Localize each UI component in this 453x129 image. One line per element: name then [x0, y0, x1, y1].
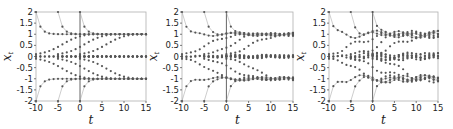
panel-1: 21.510.50-0.5-1-1.5-2-10-5051015txt [0, 7, 151, 127]
plot-frame [36, 12, 146, 101]
figure: 21.510.50-0.5-1-1.5-2-10-5051015txt 21.5… [0, 0, 453, 129]
x-axis-label: t [235, 113, 240, 127]
y-tick-label: -0.5 [309, 63, 326, 73]
y-tick-label: -1 [171, 74, 179, 84]
y-tick-label: 1.5 [312, 18, 326, 28]
plot-frame [329, 12, 438, 101]
x-tick-label: 15 [141, 103, 152, 113]
y-tick-label: -1 [25, 74, 33, 84]
x-axis-label: t [381, 113, 386, 127]
y-tick-label: -1.5 [309, 85, 326, 95]
x-tick-label: 10 [411, 103, 422, 113]
y-tick-label: 0 [321, 52, 326, 62]
x-tick-label: 10 [119, 103, 130, 113]
y-tick-label: -1.5 [162, 85, 179, 95]
x-tick-label: 0 [224, 103, 229, 113]
y-tick-label: -1.5 [16, 85, 33, 95]
x-tick-label: -10 [29, 103, 43, 113]
x-tick-label: 5 [246, 103, 251, 113]
y-tick-label: 1.5 [165, 18, 179, 28]
y-tick-label: 2 [174, 7, 179, 17]
x-tick-label: -5 [347, 103, 355, 113]
y-tick-label: 1 [28, 29, 33, 39]
y-tick-label: 1.5 [19, 18, 33, 28]
y-tick-label: -0.5 [162, 63, 179, 73]
y-axis-label: xt [293, 52, 308, 62]
x-tick-label: -10 [322, 103, 336, 113]
y-tick-label: 2 [28, 7, 33, 17]
y-tick-label: 0.5 [19, 40, 33, 50]
x-tick-label: 10 [265, 103, 276, 113]
y-axis-label: xt [146, 52, 161, 62]
y-tick-label: -1 [318, 74, 326, 84]
y-tick-label: 0.5 [165, 40, 179, 50]
x-tick-label: -5 [200, 103, 208, 113]
y-tick-label: 0 [28, 52, 33, 62]
panel-2: 21.510.50-0.5-1-1.5-2-10-5051015txt [146, 7, 298, 127]
y-tick-label: 1 [321, 29, 326, 39]
x-tick-label: -5 [54, 103, 62, 113]
x-tick-label: 0 [370, 103, 375, 113]
x-tick-label: 15 [288, 103, 299, 113]
y-tick-label: 0.5 [312, 40, 326, 50]
y-tick-label: 2 [321, 7, 326, 17]
x-tick-label: 5 [392, 103, 397, 113]
x-tick-label: 5 [99, 103, 104, 113]
y-tick-label: -0.5 [16, 63, 33, 73]
panel-3: 21.510.50-0.5-1-1.5-2-10-5051015txt [293, 7, 443, 127]
y-tick-label: 1 [174, 29, 179, 39]
x-tick-label: 0 [77, 103, 82, 113]
x-axis-label: t [89, 113, 94, 127]
plot-frame [182, 12, 293, 101]
y-axis-label: xt [0, 52, 15, 62]
x-tick-label: -10 [175, 103, 189, 113]
y-tick-label: 0 [174, 52, 179, 62]
x-tick-label: 15 [433, 103, 444, 113]
